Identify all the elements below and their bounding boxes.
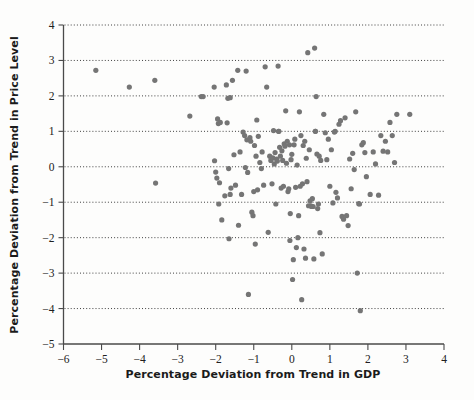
data-point bbox=[253, 154, 258, 159]
data-point bbox=[252, 143, 257, 148]
data-point bbox=[288, 157, 293, 162]
data-point bbox=[373, 161, 378, 166]
data-point bbox=[327, 184, 332, 189]
data-point bbox=[317, 230, 322, 235]
y-tick-label--3: −3 bbox=[42, 267, 54, 279]
data-point bbox=[344, 213, 349, 218]
data-point bbox=[407, 112, 412, 117]
data-point bbox=[254, 117, 259, 122]
data-point bbox=[187, 113, 192, 118]
data-point bbox=[333, 190, 338, 195]
data-point bbox=[290, 277, 295, 282]
data-point bbox=[338, 118, 343, 123]
data-point bbox=[228, 95, 233, 100]
y-tick-label-4: 4 bbox=[49, 19, 55, 31]
x-tick-label-0: 0 bbox=[289, 353, 295, 365]
data-point bbox=[289, 152, 294, 157]
data-point bbox=[304, 156, 309, 161]
y-tick-marks-group bbox=[59, 25, 64, 344]
data-point bbox=[295, 162, 300, 167]
data-point bbox=[347, 156, 352, 161]
y-tick-label-3: 3 bbox=[49, 54, 55, 66]
data-point bbox=[230, 78, 235, 83]
data-point bbox=[300, 181, 305, 186]
data-point bbox=[362, 150, 367, 155]
data-point bbox=[213, 169, 218, 174]
data-point bbox=[276, 129, 281, 134]
x-tick-label-3: 3 bbox=[403, 353, 409, 365]
x-tick-label--1: −1 bbox=[248, 353, 260, 365]
data-point bbox=[152, 78, 157, 83]
data-point bbox=[236, 223, 241, 228]
data-point bbox=[257, 160, 262, 165]
data-point bbox=[333, 129, 338, 134]
data-point bbox=[245, 170, 250, 175]
data-point bbox=[127, 84, 132, 89]
y-tick-label-0: 0 bbox=[49, 161, 55, 173]
data-point bbox=[357, 201, 362, 206]
data-point bbox=[303, 256, 308, 261]
data-point bbox=[275, 159, 280, 164]
data-point bbox=[296, 213, 301, 218]
x-tick-label--6: −6 bbox=[57, 353, 69, 365]
data-point bbox=[342, 115, 347, 120]
data-point bbox=[228, 192, 233, 197]
data-point bbox=[279, 148, 284, 153]
data-point bbox=[212, 84, 217, 89]
axes-group bbox=[64, 25, 445, 344]
scatter-plot-figure: −6−5−4−3−2−101234 −5−4−3−2−101234 Percen… bbox=[0, 0, 474, 400]
data-point bbox=[287, 238, 292, 243]
data-point bbox=[330, 200, 335, 205]
x-tick-label-1: 1 bbox=[327, 353, 333, 365]
data-point bbox=[326, 137, 331, 142]
data-point bbox=[226, 236, 231, 241]
data-point bbox=[302, 139, 307, 144]
data-point bbox=[352, 167, 357, 172]
data-point bbox=[266, 230, 271, 235]
x-tick-label--3: −3 bbox=[172, 353, 184, 365]
data-point bbox=[201, 94, 206, 99]
data-point bbox=[394, 112, 399, 117]
data-point bbox=[259, 166, 264, 171]
data-point bbox=[314, 94, 319, 99]
y-tick-labels-group: −5−4−3−2−101234 bbox=[42, 19, 55, 350]
x-axis-title: Percentage Deviation from Trend in GDP bbox=[125, 368, 380, 381]
data-point bbox=[371, 149, 376, 154]
data-point bbox=[226, 166, 231, 171]
data-point bbox=[320, 251, 325, 256]
data-points-group bbox=[93, 45, 412, 313]
data-point bbox=[301, 246, 306, 251]
data-point bbox=[283, 108, 288, 113]
data-point bbox=[282, 144, 287, 149]
data-point bbox=[243, 165, 248, 170]
data-point bbox=[329, 147, 334, 152]
data-point bbox=[368, 192, 373, 197]
data-point bbox=[233, 183, 238, 188]
data-point bbox=[316, 201, 321, 206]
y-tick-label-2: 2 bbox=[49, 90, 55, 102]
data-point bbox=[295, 235, 300, 240]
data-point bbox=[307, 147, 312, 152]
data-point bbox=[287, 142, 292, 147]
data-point bbox=[383, 139, 388, 144]
data-point bbox=[305, 50, 310, 55]
data-point bbox=[350, 151, 355, 156]
data-point bbox=[291, 142, 296, 147]
gridlines-group bbox=[65, 25, 445, 309]
data-point bbox=[231, 152, 236, 157]
data-point bbox=[358, 308, 363, 313]
x-tick-label-2: 2 bbox=[365, 353, 371, 365]
data-point bbox=[304, 179, 309, 184]
data-point bbox=[217, 180, 222, 185]
data-point bbox=[219, 217, 224, 222]
data-point bbox=[324, 157, 329, 162]
data-point bbox=[235, 68, 240, 73]
data-point bbox=[376, 193, 381, 198]
data-point bbox=[297, 109, 302, 114]
data-point bbox=[293, 185, 298, 190]
data-point bbox=[271, 128, 276, 133]
y-tick-label--4: −4 bbox=[42, 303, 54, 315]
data-point bbox=[224, 82, 229, 87]
data-point bbox=[312, 45, 317, 50]
data-point bbox=[291, 257, 296, 262]
